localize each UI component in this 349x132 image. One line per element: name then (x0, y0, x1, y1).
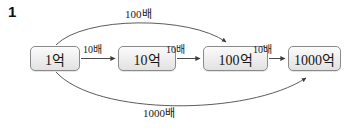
arc-top-100x (56, 23, 226, 45)
step-arrow-label-1: 10배 (83, 45, 102, 55)
diagram-page: 1 1억 10억 100억 1000억 10배 10배 10배 100배 100… (0, 0, 349, 132)
arc-bottom-label: 1000배 (143, 108, 175, 119)
node-1000eok: 1000억 (288, 46, 341, 71)
step-arrow-label-2: 10배 (166, 45, 185, 55)
node-label: 100억 (219, 49, 253, 69)
arc-top-label: 100배 (125, 9, 152, 20)
node-1eok: 1억 (30, 46, 80, 71)
node-label: 1억 (45, 49, 65, 69)
node-label: 1000억 (294, 49, 335, 69)
arc-bottom-1000x (56, 72, 306, 106)
step-arrow-label-3: 10배 (253, 45, 272, 55)
node-label: 10억 (134, 49, 161, 69)
